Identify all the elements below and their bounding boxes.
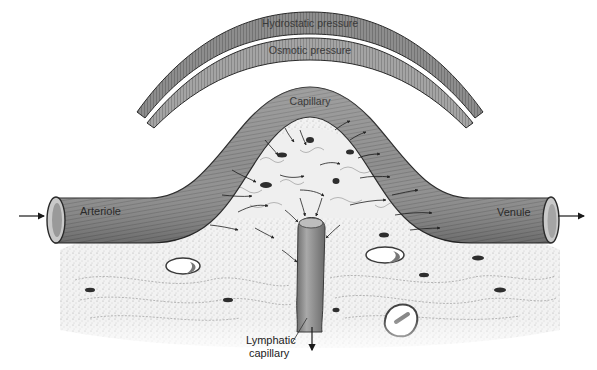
osmotic-pressure-label: Osmotic pressure (269, 44, 351, 56)
capillary-exchange-diagram: Hydrostatic pressure Osmotic pressure Ca… (0, 0, 597, 370)
hydrostatic-pressure-label: Hydrostatic pressure (262, 17, 358, 29)
lymphatic-label-line1: Lymphatic (246, 334, 296, 346)
capillary-label: Capillary (290, 95, 332, 107)
arteriole-label: Arteriole (80, 205, 121, 217)
arteriole-opening (47, 197, 65, 243)
lymphatic-label-line2: capillary (249, 347, 290, 359)
venule-label: Venule (497, 206, 531, 218)
venule-opening (543, 197, 559, 243)
